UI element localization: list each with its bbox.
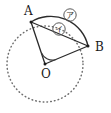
marker-chord-label: イ — [55, 25, 63, 34]
point-b-dot — [87, 45, 90, 48]
point-o-dot — [44, 63, 47, 66]
point-label-o: O — [41, 67, 51, 81]
figure-canvas: A B O ア イ — [0, 0, 111, 113]
point-a-dot — [30, 21, 33, 24]
geometry-figure: A B O ア イ — [0, 0, 111, 113]
radius-oa — [31, 22, 45, 64]
point-label-a: A — [23, 4, 33, 18]
marker-chord-group: イ — [53, 23, 65, 35]
point-label-b: B — [95, 40, 104, 54]
marker-arc-group: ア — [64, 9, 76, 21]
marker-arc-label: ア — [66, 11, 74, 20]
